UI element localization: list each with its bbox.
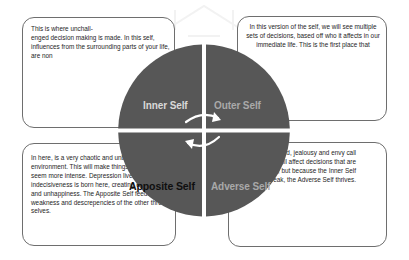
quadrant-inner	[118, 45, 202, 129]
quadrant-outer	[206, 45, 290, 129]
apposite-self-label: Apposite Self	[129, 180, 195, 192]
self-quadrant-circle: Inner Self Outer Self Apposite Self Adve…	[118, 44, 290, 217]
quadrant-adverse	[206, 133, 290, 217]
outer-self-label: Outer Self	[214, 100, 261, 111]
adverse-self-label: Adverse Self	[211, 181, 270, 192]
inner-self-label: Inner Self	[143, 100, 188, 111]
